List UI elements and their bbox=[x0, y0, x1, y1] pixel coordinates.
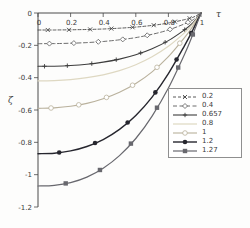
x-axis-label: τ bbox=[216, 10, 221, 19]
y-tick-label: -0.2 bbox=[18, 42, 32, 50]
legend-line-sample-1 bbox=[172, 129, 198, 137]
legend-line-sample-0.8 bbox=[172, 120, 198, 128]
marker-square-filled bbox=[129, 141, 133, 145]
marker-diamond-open bbox=[71, 41, 76, 46]
marker-diamond-open bbox=[47, 41, 52, 46]
y-tick-label: 0 bbox=[28, 10, 32, 18]
marker-plus bbox=[65, 63, 69, 67]
marker-square-filled bbox=[183, 148, 187, 152]
figure-consolidation-curves: 00.20.40.60.810-0.2-0.4-0.6-0.8-1-1.2 ζ … bbox=[0, 0, 250, 228]
marker-square-filled bbox=[191, 32, 195, 36]
legend-item-0.657: 0.657 bbox=[172, 110, 239, 119]
legend-line-sample-0.2 bbox=[172, 93, 198, 101]
y-axis-label: ζ bbox=[8, 96, 13, 105]
legend-label-0.4: 0.4 bbox=[198, 102, 213, 109]
x-tick-label: 1 bbox=[200, 19, 204, 27]
marker-plus bbox=[114, 57, 118, 61]
legend-label-1.27: 1.27 bbox=[198, 147, 218, 154]
y-tick-label: -0.4 bbox=[18, 74, 32, 82]
y-tick-label: -0.8 bbox=[18, 139, 32, 147]
legend-line-sample-0.4 bbox=[172, 102, 198, 110]
marker-plus bbox=[90, 61, 94, 65]
y-tick-label: -0.6 bbox=[18, 107, 32, 115]
marker-circle-open bbox=[104, 95, 109, 100]
legend-line-sample-1.27 bbox=[172, 147, 198, 155]
legend-item-1: 1 bbox=[172, 128, 239, 137]
x-tick-label: 0 bbox=[37, 19, 41, 27]
legend-box: 0.20.40.6570.811.21.27 bbox=[168, 88, 242, 158]
marker-plus bbox=[42, 64, 46, 68]
marker-circle-filled bbox=[57, 150, 62, 155]
marker-diamond-open bbox=[145, 33, 150, 38]
legend-label-1: 1 bbox=[198, 129, 206, 136]
marker-circle-filled bbox=[174, 57, 179, 62]
marker-circle-open bbox=[76, 103, 81, 108]
legend-item-0.2: 0.2 bbox=[172, 92, 239, 101]
legend-label-0.8: 0.8 bbox=[198, 120, 213, 127]
marker-square-filled bbox=[176, 65, 180, 69]
marker-diamond-open bbox=[185, 20, 190, 25]
marker-circle-filled bbox=[125, 120, 130, 125]
x-tick-label: 0.6 bbox=[131, 19, 143, 27]
legend-item-0.4: 0.4 bbox=[172, 101, 239, 110]
marker-circle-open bbox=[49, 106, 54, 111]
marker-circle-open bbox=[130, 83, 135, 88]
marker-square-filled bbox=[64, 181, 68, 185]
marker-diamond-open bbox=[96, 39, 101, 44]
marker-circle-filled bbox=[153, 90, 158, 95]
legend-label-1.2: 1.2 bbox=[198, 138, 213, 145]
marker-diamond-open bbox=[120, 37, 125, 42]
legend-line-sample-0.657 bbox=[172, 111, 198, 119]
marker-square-filled bbox=[98, 168, 102, 172]
marker-diamond-open bbox=[183, 103, 188, 108]
marker-plus bbox=[138, 51, 142, 55]
marker-plus bbox=[183, 112, 187, 116]
marker-circle-open bbox=[178, 41, 183, 46]
marker-circle-filled bbox=[183, 139, 188, 144]
legend-item-1.27: 1.27 bbox=[172, 146, 239, 155]
legend-label-0.657: 0.657 bbox=[198, 111, 222, 118]
marker-circle-open bbox=[183, 130, 188, 135]
legend-line-sample-1.2 bbox=[172, 138, 198, 146]
legend-item-0.8: 0.8 bbox=[172, 119, 239, 128]
x-tick-label: 0.2 bbox=[66, 19, 77, 27]
y-tick-label: -1 bbox=[25, 171, 32, 179]
marker-square-filled bbox=[155, 106, 159, 110]
marker-diamond-open bbox=[168, 27, 173, 32]
marker-circle-open bbox=[155, 65, 160, 70]
legend-label-0.2: 0.2 bbox=[198, 93, 213, 100]
marker-circle-filled bbox=[93, 141, 98, 146]
y-tick-label: -1.2 bbox=[18, 204, 32, 212]
x-tick-label: 0.4 bbox=[99, 19, 111, 27]
legend-item-1.2: 1.2 bbox=[172, 137, 239, 146]
